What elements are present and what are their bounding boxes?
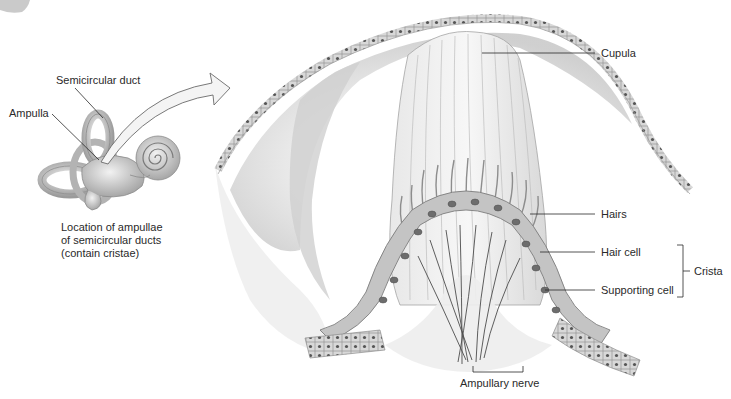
label-ampullary-nerve: Ampullary nerve <box>460 377 539 390</box>
label-supporting-cell: Supporting cell <box>601 284 674 297</box>
label-semicircular-duct: Semicircular duct <box>56 74 140 87</box>
label-crista: Crista <box>694 265 723 278</box>
caption-line-2: of semicircular ducts <box>61 234 163 247</box>
label-ampulla: Ampulla <box>9 107 49 120</box>
inner-ear-icon <box>42 114 180 210</box>
label-cupula: Cupula <box>601 47 636 60</box>
cupula <box>390 31 547 305</box>
caption-line-3: (contain cristae) <box>61 247 163 260</box>
label-hair-cell: Hair cell <box>601 246 641 259</box>
caption-line-1: Location of ampullae <box>61 221 163 234</box>
inset-caption: Location of ampullae of semicircular duc… <box>61 221 163 260</box>
label-hairs: Hairs <box>601 208 627 221</box>
crista-ampullaris-diagram: Semicircular duct Ampulla Location of am… <box>0 0 731 399</box>
